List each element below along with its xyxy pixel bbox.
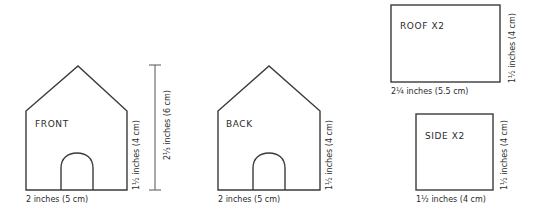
roof-label: ROOF X2 [400, 21, 445, 32]
front-width-label: 2 inches (5 cm) [26, 195, 88, 205]
back-door [253, 153, 285, 190]
front-height-dimension [149, 65, 161, 190]
front-wall-height-label: 1½ inches (4 cm) [132, 120, 142, 190]
back-label: BACK [226, 119, 253, 130]
side-label: SIDE X2 [425, 131, 465, 142]
side-outline [416, 114, 493, 190]
front-total-height-label: 2⅓ inches (6 cm) [163, 90, 173, 160]
roof-width-label: 2¼ inches (5.5 cm) [391, 87, 468, 97]
front-label: FRONT [35, 119, 69, 130]
roof-outline [391, 5, 500, 82]
template-diagram [0, 0, 541, 218]
side-height-label: 1½ inches (4 cm) [500, 120, 510, 190]
back-width-label: 2 inches (5 cm) [218, 195, 280, 205]
roof-height-label: 1½ inches (4 cm) [508, 13, 518, 83]
front-door [61, 153, 93, 190]
back-wall-height-label: 1½ inches (4 cm) [325, 120, 335, 190]
side-width-label: 1½ inches (4 cm) [416, 195, 486, 205]
